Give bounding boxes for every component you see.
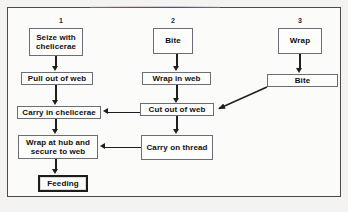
arrowhead-bite2-to-wrap-in-web <box>173 66 179 71</box>
node-seize-with-chelicerae[interactable]: Seize with chelicerae <box>29 28 83 56</box>
arrowhead-carry-on-thread-to-wrap-at-hub <box>100 143 105 149</box>
arrowhead-wrap-hub-to-feeding <box>52 169 58 174</box>
node-bite-column-2[interactable]: Bite <box>153 28 193 54</box>
node-wrap-at-hub-and-secure-to-web[interactable]: Wrap at hub and secure to web <box>18 135 98 159</box>
arrowhead-wrap3-to-bite3 <box>296 68 302 73</box>
node-cut-out-of-web[interactable]: Cut out of web <box>140 103 214 116</box>
edge-wrap-in-web-to-cut <box>176 85 178 98</box>
diagram-screenshot: 1 2 3 Seize with chelicerae Pull out of … <box>0 0 348 212</box>
edge-wrap3-to-bite3 <box>299 54 301 68</box>
node-feeding[interactable]: Feeding <box>38 175 88 192</box>
node-bite-column-3[interactable]: Bite <box>267 74 338 87</box>
edge-bite2-to-wrap-in-web <box>176 54 178 66</box>
edge-carry-on-thread-to-wrap-at-hub <box>105 147 141 149</box>
arrowhead-carry-to-wrap-hub <box>52 129 58 134</box>
arrowhead-cut-to-carry-on-thread <box>173 129 179 134</box>
node-pull-out-of-web[interactable]: Pull out of web <box>21 72 93 85</box>
node-carry-on-thread[interactable]: Carry on thread <box>141 135 213 160</box>
node-wrap-in-web[interactable]: Wrap in web <box>142 72 211 85</box>
column-label-1: 1 <box>36 17 86 25</box>
node-carry-in-chelicerae[interactable]: Carry in chelicerae <box>17 106 101 119</box>
arrowhead-cut-to-carry-in-chelicerae <box>103 108 108 114</box>
edge-cut-to-carry-in-chelicerae <box>108 112 140 114</box>
arrowhead-pull-to-carry <box>52 100 58 105</box>
edge-pull-to-carry <box>55 85 57 100</box>
column-label-3: 3 <box>275 17 325 25</box>
column-label-2: 2 <box>148 17 198 25</box>
edge-cut-to-carry-on-thread <box>176 116 178 129</box>
node-wrap-column-3[interactable]: Wrap <box>278 28 322 54</box>
arrowhead-seize-to-pull <box>52 66 58 71</box>
